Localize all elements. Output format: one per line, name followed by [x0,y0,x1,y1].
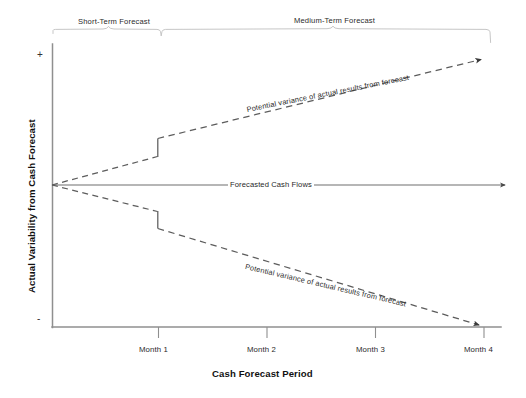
short-term-bracket-label: Short-Term Forecast [78,18,150,26]
x-axis-title: Cash Forecast Period [212,369,313,379]
diagram-canvas [0,0,526,398]
x-tick-label-month-3: Month 3 [356,346,385,354]
x-axis-ticks [159,327,485,338]
medium-term-bracket-label: Medium-Term Forecast [294,17,375,25]
upper-variance-line [52,60,481,186]
cash-forecast-variability-diagram: Short-Term Forecast Medium-Term Forecast… [0,0,526,398]
positive-axis-marker: + [37,50,43,60]
forecasted-cash-flows-label: Forecasted Cash Flows [228,181,314,189]
x-tick-label-month-1: Month 1 [139,346,168,354]
y-axis-title: Actual Variability from Cash Forecast [27,119,37,293]
x-tick-label-month-2: Month 2 [247,346,276,354]
negative-axis-marker: - [37,314,40,324]
short-term-bracket [53,26,161,35]
x-tick-label-month-4: Month 4 [464,346,493,354]
medium-term-bracket [161,26,490,42]
lower-variance-line [52,185,479,325]
